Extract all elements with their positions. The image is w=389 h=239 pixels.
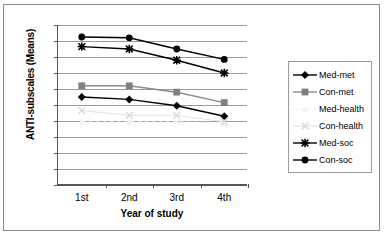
legend-item-med-health[interactable]: Med-health	[292, 100, 368, 117]
data-point-diamond	[78, 93, 86, 101]
x-tick-mark	[106, 184, 107, 188]
legend-item-med-soc[interactable]: Med-soc	[292, 134, 368, 151]
legend-label: Con-soc	[318, 155, 353, 165]
legend-label: Con-met	[318, 87, 354, 97]
data-point-square	[173, 89, 180, 96]
data-point-star	[173, 56, 181, 64]
series-layer	[58, 25, 248, 185]
data-point-circle	[173, 46, 180, 53]
x-tick-mark	[153, 184, 154, 188]
x-tick-mark	[201, 184, 202, 188]
series-con-health	[78, 107, 227, 125]
legend-key-cross-icon	[292, 119, 318, 133]
data-point-square	[126, 82, 133, 89]
x-axis-title: Year of study	[57, 208, 247, 219]
legend: Med-metCon-metMed-healthCon-healthMed-so…	[288, 61, 372, 173]
y-tick-mark	[54, 25, 58, 26]
data-point-circle	[78, 34, 85, 41]
legend-item-med-met[interactable]: Med-met	[292, 66, 368, 83]
chart-frame: ANTI-subscales (Means) 02468101214161820…	[3, 4, 380, 231]
data-point-square	[302, 88, 309, 95]
legend-label: Med-health	[318, 104, 364, 114]
plot-area: 024681012141618201st2nd3rd4th	[57, 25, 247, 185]
data-point-star	[125, 45, 133, 53]
legend-item-con-met[interactable]: Con-met	[292, 83, 368, 100]
y-tick-mark	[54, 41, 58, 42]
data-point-diamond	[301, 71, 309, 79]
y-tick-mark	[54, 73, 58, 74]
y-tick-mark	[54, 137, 58, 138]
y-tick-mark	[54, 153, 58, 154]
legend-key-triangle-icon	[292, 102, 318, 116]
legend-item-con-health[interactable]: Con-health	[292, 117, 368, 134]
data-point-square	[78, 82, 85, 89]
x-tick-mark	[248, 184, 249, 188]
data-point-square	[221, 99, 228, 106]
legend-label: Med-met	[318, 70, 355, 80]
data-point-diamond	[173, 102, 181, 110]
x-tick-label: 2nd	[109, 192, 149, 203]
data-point-star	[78, 42, 86, 50]
x-tick-label: 3rd	[157, 192, 197, 203]
legend-key-star-icon	[292, 136, 318, 150]
y-tick-mark	[54, 121, 58, 122]
legend-label: Con-health	[318, 121, 363, 131]
y-tick-mark	[54, 57, 58, 58]
data-point-circle	[221, 56, 228, 63]
legend-key-square-icon	[292, 85, 318, 99]
data-point-circle	[302, 156, 309, 163]
data-point-star	[301, 138, 309, 146]
y-tick-mark	[54, 89, 58, 90]
data-point-star	[220, 69, 228, 77]
legend-label: Med-soc	[318, 138, 354, 148]
y-axis-title: ANTI-subscales (Means)	[25, 15, 36, 155]
series-med-met	[78, 93, 229, 120]
legend-key-diamond-icon	[292, 68, 318, 82]
clipped-title-remnant	[154, 5, 274, 9]
y-tick-mark	[54, 169, 58, 170]
y-tick-mark	[54, 105, 58, 106]
legend-item-con-soc[interactable]: Con-soc	[292, 151, 368, 168]
x-tick-label: 1st	[62, 192, 102, 203]
data-point-circle	[126, 34, 133, 41]
x-tick-label: 4th	[204, 192, 244, 203]
legend-key-circle-icon	[292, 153, 318, 167]
data-point-diamond	[125, 95, 133, 103]
y-tick-mark	[54, 185, 58, 186]
series-med-soc	[78, 42, 229, 77]
